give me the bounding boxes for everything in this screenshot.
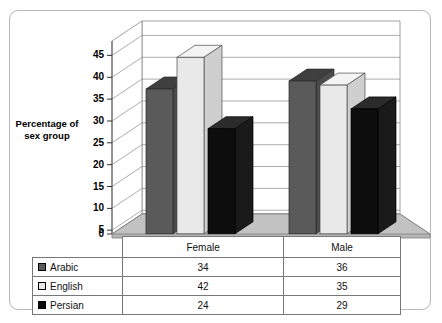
legend-item-english: English xyxy=(33,277,123,296)
legend-item-persian: Persian xyxy=(33,296,123,315)
cell-persian-male: 29 xyxy=(284,296,401,315)
cell-english-male: 35 xyxy=(284,277,401,296)
y-tick-label-15: 15 xyxy=(80,182,104,192)
y-axis-title-line-2: sex group xyxy=(8,130,86,142)
legend-swatch-persian xyxy=(38,301,46,309)
table-row: Persian 24 29 xyxy=(33,296,401,315)
legend-swatch-arabic xyxy=(38,263,46,271)
chart-left-wall xyxy=(112,21,142,234)
cell-arabic-female: 34 xyxy=(123,258,284,277)
y-tick-label-35: 35 xyxy=(80,94,104,104)
y-axis-title-line-1: Percentage of xyxy=(8,118,86,130)
y-tick-label-10: 10 xyxy=(80,203,104,213)
y-tick-label-40: 40 xyxy=(80,72,104,82)
legend-label-persian: Persian xyxy=(50,300,84,311)
legend-item-arabic: Arabic xyxy=(33,258,123,277)
legend-swatch-english xyxy=(38,282,46,290)
table-row: Arabic 34 36 xyxy=(33,258,401,277)
bar-male-persian xyxy=(351,97,396,234)
y-tick-label-20: 20 xyxy=(80,160,104,170)
legend-label-arabic: Arabic xyxy=(50,262,78,273)
y-tick-marks xyxy=(107,55,112,234)
table-row-categories: Female Male xyxy=(33,237,401,258)
table-header-female: Female xyxy=(123,237,284,258)
cell-persian-female: 24 xyxy=(123,296,284,315)
table-header-male: Male xyxy=(284,237,401,258)
bar-female-persian xyxy=(208,117,253,234)
y-axis-title: Percentage of sex group xyxy=(8,118,86,142)
chart-data-table: Female Male Arabic 34 36 English 42 35 P… xyxy=(32,236,401,315)
cell-arabic-male: 36 xyxy=(284,258,401,277)
cell-english-female: 42 xyxy=(123,277,284,296)
table-corner-cell xyxy=(33,237,123,258)
legend-label-english: English xyxy=(50,281,83,292)
table-row: English 42 35 xyxy=(33,277,401,296)
y-tick-label-45: 45 xyxy=(80,50,104,60)
